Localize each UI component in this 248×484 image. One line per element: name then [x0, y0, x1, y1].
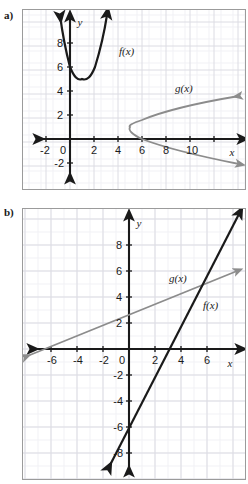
- panel-b-ytick--8: -8: [113, 447, 123, 459]
- panel-b-svg: -6 -4 -2 0 2 4 6 8 6 4 2 -2 -4 -6 -8 x y: [23, 209, 246, 480]
- panel-a-xtick-0: 0: [60, 144, 66, 156]
- panel-a-label-fx: f(x): [119, 45, 135, 58]
- panel-a: a): [0, 0, 248, 196]
- panel-b-ytick--2: -2: [113, 369, 123, 381]
- panel-a-label-gx: g(x): [175, 82, 193, 95]
- panel-a-xtick-4: 4: [115, 144, 121, 156]
- panel-b-ytick--6: -6: [113, 421, 123, 433]
- panel-b-ytick-6: 6: [116, 265, 122, 277]
- panel-b-xtick--4: -4: [73, 354, 83, 366]
- panel-b-ytick-4: 4: [116, 291, 122, 303]
- panel-b-label: b): [4, 206, 14, 218]
- panel-b-ytick-2: 2: [116, 317, 122, 329]
- panel-b-plot-area: -6 -4 -2 0 2 4 6 8 6 4 2 -2 -4 -6 -8 x y: [22, 208, 246, 480]
- panel-b-xtick-0: 0: [119, 354, 125, 366]
- panel-b-xtick--6: -6: [47, 354, 57, 366]
- panel-b-xtick--2: -2: [99, 354, 109, 366]
- panel-b-ytick-8: 8: [116, 239, 122, 251]
- panel-a-ytick-2: 2: [57, 109, 63, 121]
- panel-a-plot-area: -2 0 2 4 6 8 10 8 6 4 2 -2 x y f(x) g(x): [22, 9, 246, 190]
- panel-b-xtick-2: 2: [152, 354, 158, 366]
- panel-b-label-fx: f(x): [203, 299, 219, 312]
- panel-b-ytick--4: -4: [113, 395, 123, 407]
- panel-b-label-gx: g(x): [169, 272, 187, 285]
- panel-a-ytick-6: 6: [57, 61, 63, 73]
- panel-a-svg: -2 0 2 4 6 8 10 8 6 4 2 -2 x y f(x) g(x): [23, 10, 246, 190]
- panel-b-line-f: [108, 214, 239, 469]
- panel-a-xtick-10: 10: [186, 144, 198, 156]
- panel-b: b): [0, 196, 248, 484]
- panel-a-xtick-2: 2: [91, 144, 97, 156]
- panel-a-x-axis-label: x: [229, 146, 235, 158]
- panel-a-ytick-8: 8: [57, 37, 63, 49]
- panel-a-xtick-8: 8: [163, 144, 169, 156]
- panel-b-x-axis-label: x: [227, 357, 233, 369]
- panel-b-xtick-4: 4: [178, 354, 184, 366]
- panel-b-axes: [31, 217, 239, 473]
- panel-a-xtick-6: 6: [139, 144, 145, 156]
- panel-a-curve-g: [130, 96, 240, 164]
- panel-b-y-axis-label: y: [136, 217, 142, 229]
- panel-a-y-axis-label: y: [77, 16, 83, 28]
- panel-b-xtick-6: 6: [204, 354, 210, 366]
- panel-a-ytick--2: -2: [54, 157, 64, 169]
- panel-a-ytick-4: 4: [57, 85, 63, 97]
- panel-a-label: a): [4, 9, 13, 21]
- panel-a-xtick--2: -2: [40, 144, 50, 156]
